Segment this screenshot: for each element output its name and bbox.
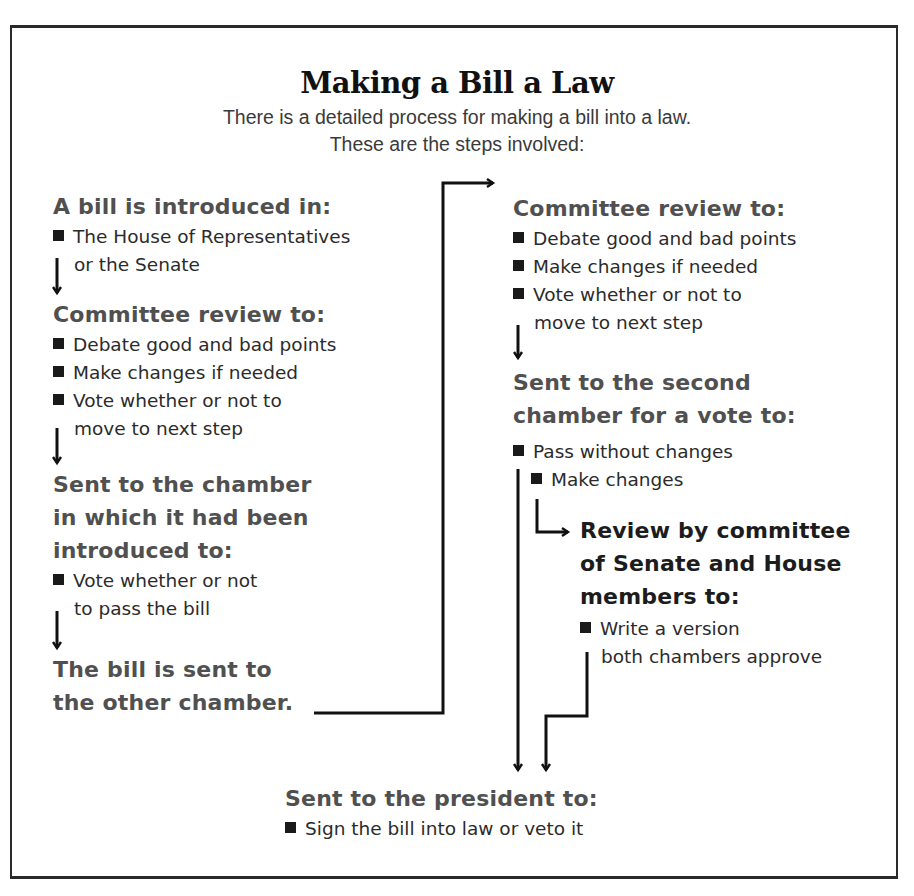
connector-arrow-icon — [314, 183, 493, 713]
flow-connectors — [0, 0, 914, 896]
connector-arrow-icon — [546, 652, 587, 770]
elbow-arrow-icon — [537, 499, 568, 532]
